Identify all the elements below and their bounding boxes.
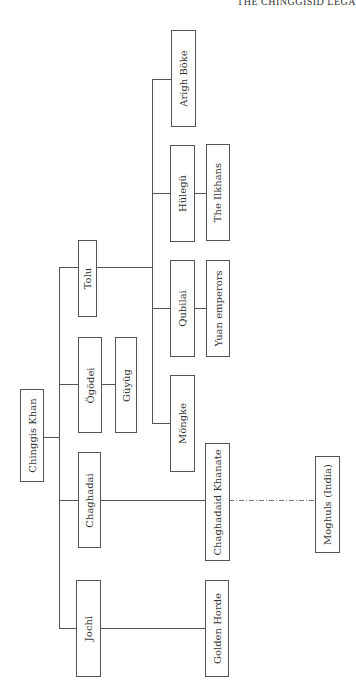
node-jochi: Jochi	[76, 580, 101, 677]
node-yuan-emperors: Yuan emperors	[206, 260, 230, 357]
node-label: Chaghadai	[84, 473, 95, 527]
connector-jochi	[59, 628, 76, 629]
node-label: Jochi	[83, 616, 94, 641]
node-label: The Ilkhans	[213, 163, 224, 222]
connector-ogodei-guyug	[101, 384, 115, 385]
node-label: Qubilai	[177, 290, 188, 327]
node-moghuls: Moghuls (India)	[315, 456, 340, 553]
connector-hulegu-ilkhans	[194, 193, 206, 194]
connector-root	[43, 437, 59, 438]
node-label: Golden Horde	[212, 593, 223, 664]
node-golden-horde: Golden Horde	[205, 580, 229, 677]
node-chinggis-khan: Chinggis Khan	[20, 389, 44, 482]
node-label: Chinggis Khan	[27, 398, 38, 472]
node-ogodei: Ögödei	[78, 337, 102, 433]
running-header: THE CHINGGISID LEGA	[237, 0, 356, 7]
node-label: Ögödei	[85, 367, 96, 403]
node-chaghadai: Chaghadai	[78, 452, 101, 548]
connector-tolu-spine	[96, 267, 152, 268]
node-label: Moghuls (India)	[322, 464, 333, 545]
node-ilkhans: The Ilkhans	[206, 144, 230, 241]
node-tolu: Tolu	[78, 240, 97, 317]
node-label: Yuan emperors	[213, 270, 224, 346]
node-label: Tolu	[82, 268, 93, 290]
connector-tolu-sons-spine	[152, 79, 153, 424]
connector-qubilai-yuan	[194, 308, 206, 309]
node-label: Chaghadaid Khanate	[212, 449, 223, 555]
connector-tolu	[59, 267, 78, 268]
connector-chaghadai-khanate	[100, 500, 205, 501]
node-qubilai: Qubilai	[170, 260, 195, 357]
connector-qubilai	[152, 308, 170, 309]
node-chaghadaid-khanate: Chaghadaid Khanate	[205, 443, 230, 561]
node-label: Güyüg	[121, 369, 132, 402]
node-arigh-boke: Arigh Böke	[171, 30, 196, 127]
connector-arigh-boke	[152, 79, 171, 80]
node-hulegu: Hülegü	[170, 145, 195, 242]
connector-sons-spine	[59, 267, 60, 628]
node-mongke: Möngke	[170, 375, 195, 472]
node-label: Möngke	[177, 403, 188, 444]
node-guyug: Güyüg	[115, 337, 137, 433]
connector-ogodei	[59, 384, 78, 385]
connector-chaghadai	[59, 500, 78, 501]
node-label: Hülegü	[177, 175, 188, 212]
connector-hulegu	[152, 193, 170, 194]
connector-jochi-golden-horde	[100, 628, 205, 629]
node-label: Arigh Böke	[178, 50, 189, 107]
connector-mongke	[152, 423, 170, 424]
connector-khanate-moghuls	[229, 500, 315, 501]
